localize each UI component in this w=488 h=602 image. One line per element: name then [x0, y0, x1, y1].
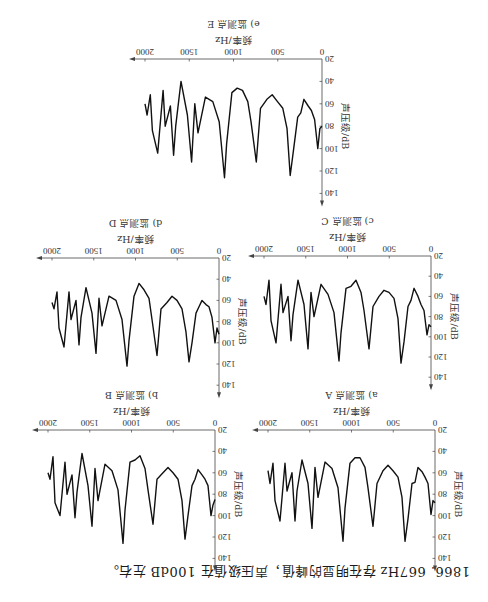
y-tick-label: 100 [218, 511, 232, 521]
spectrum-line [145, 81, 322, 177]
x-axis-arrow-icon [248, 254, 254, 258]
x-axis-arrow-icon [32, 428, 38, 432]
x-tick-label: 2000 [43, 246, 62, 256]
x-tick-label: 1500 [296, 244, 315, 254]
panel-caption: b) 监测点 B [105, 390, 158, 401]
x-tick-label: 1000 [126, 246, 145, 256]
x-tick-label: 0 [212, 418, 217, 428]
x-tick-label: 1500 [180, 47, 199, 57]
x-tick-label: 1000 [224, 47, 243, 57]
x-tick-label: 0 [216, 246, 221, 256]
x-tick-label: 500 [386, 418, 400, 428]
panel-e: 050010001500200020406080100120140声压级/dB频… [129, 19, 351, 206]
y-tick-label: 20 [222, 253, 232, 263]
panel-b: 050010001500200020406080100120140声压级/dB频… [32, 390, 244, 571]
panel-caption: d) 监测点 D [108, 218, 162, 229]
x-axis-title: 频率/Hz [215, 35, 252, 46]
y-tick-label: 80 [434, 312, 444, 322]
y-tick-label: 20 [434, 251, 444, 261]
y-tick-label: 40 [438, 446, 448, 456]
y-tick-label: 40 [434, 271, 444, 281]
x-tick-label: 1000 [338, 244, 357, 254]
panel-caption: c) 监测点 C [321, 216, 373, 227]
x-tick-label: 0 [428, 244, 433, 254]
y-tick-label: 20 [218, 425, 228, 435]
y-tick-label: 100 [325, 144, 339, 154]
y-tick-label: 100 [222, 338, 236, 348]
y-tick-label: 140 [438, 553, 452, 563]
x-axis-arrow-icon [36, 256, 42, 260]
y-axis-arrow-icon [213, 565, 217, 571]
y-tick-label: 100 [438, 511, 452, 521]
spectrum-line [48, 454, 215, 544]
y-tick-label: 40 [325, 76, 335, 86]
y-tick-label: 40 [222, 274, 232, 284]
x-tick-label: 1000 [122, 418, 141, 428]
x-tick-label: 2000 [39, 418, 58, 428]
y-axis-arrow-icon [320, 200, 324, 206]
y-tick-label: 140 [434, 372, 448, 382]
x-tick-label: 1000 [342, 418, 361, 428]
x-tick-label: 1500 [80, 418, 99, 428]
x-tick-label: 500 [166, 418, 180, 428]
x-tick-label: 500 [382, 244, 396, 254]
y-axis-title: 声压级/dB [233, 471, 244, 517]
x-axis-arrow-icon [252, 428, 258, 432]
y-tick-label: 140 [218, 553, 232, 563]
x-tick-label: 2000 [255, 244, 274, 254]
y-tick-label: 60 [438, 468, 448, 478]
y-tick-label: 80 [438, 489, 448, 499]
y-tick-label: 20 [438, 425, 448, 435]
y-tick-label: 60 [325, 99, 335, 109]
x-tick-label: 2000 [259, 418, 278, 428]
x-axis-title: 频率/Hz [333, 406, 370, 417]
x-tick-label: 1500 [84, 246, 103, 256]
x-tick-label: 500 [170, 246, 184, 256]
figure-page: 1866. 667Hz 存在明显的峰值，声压级值在 100dB 左右。 0500… [0, 0, 488, 602]
y-tick-label: 120 [325, 166, 339, 176]
y-tick-label: 60 [434, 291, 444, 301]
y-tick-label: 140 [222, 380, 236, 390]
y-tick-label: 100 [434, 332, 448, 342]
x-tick-label: 2000 [136, 47, 155, 57]
spectrum-line [52, 283, 219, 366]
y-tick-label: 80 [218, 489, 228, 499]
y-axis-title: 声压级/dB [340, 103, 351, 149]
panel-d: 050010001500200020406080100120140声压级/dB频… [36, 218, 248, 398]
spectrum-plots: 050010001500200020406080100120140声压级/dB频… [0, 0, 488, 602]
spectrum-line [264, 280, 431, 363]
y-tick-label: 140 [325, 188, 339, 198]
x-axis-title: 频率/Hz [117, 234, 154, 245]
x-tick-label: 1500 [300, 418, 319, 428]
y-tick-label: 40 [218, 446, 228, 456]
y-tick-label: 120 [222, 359, 236, 369]
y-tick-label: 60 [218, 468, 228, 478]
spectrum-line [268, 458, 435, 542]
panel-caption: e) 监测点 E [207, 19, 259, 30]
x-axis-title: 频率/Hz [113, 406, 150, 417]
y-tick-label: 60 [222, 295, 232, 305]
y-axis-arrow-icon [217, 392, 221, 398]
y-axis-title: 声压级/dB [237, 298, 248, 344]
y-axis-title: 声压级/dB [449, 293, 460, 339]
panel-a: 050010001500200020406080100120140声压级/dB频… [252, 390, 464, 571]
x-tick-label: 500 [271, 47, 285, 57]
x-tick-label: 0 [319, 47, 324, 57]
y-tick-label: 120 [438, 532, 452, 542]
y-tick-label: 20 [325, 54, 335, 64]
x-axis-arrow-icon [129, 57, 135, 61]
x-axis-title: 频率/Hz [329, 232, 366, 243]
panel-caption: a) 监测点 A [325, 390, 377, 401]
x-tick-label: 0 [432, 418, 437, 428]
y-tick-label: 80 [222, 317, 232, 327]
y-axis-title: 声压级/dB [453, 471, 464, 517]
y-tick-label: 120 [434, 352, 448, 362]
y-tick-label: 80 [325, 121, 335, 131]
panel-c: 050010001500200020406080100120140声压级/dB频… [248, 216, 460, 390]
y-axis-arrow-icon [433, 565, 437, 571]
y-tick-label: 120 [218, 532, 232, 542]
y-axis-arrow-icon [429, 384, 433, 390]
